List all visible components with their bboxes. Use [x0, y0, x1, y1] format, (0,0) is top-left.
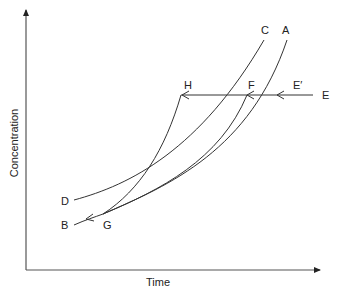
- label-f: F: [248, 79, 255, 91]
- label-a: A: [282, 24, 290, 36]
- curve-d-c: [74, 40, 264, 200]
- label-e-prime: E′: [293, 79, 302, 91]
- label-h: H: [184, 79, 192, 91]
- label-d: D: [61, 195, 69, 207]
- label-b: B: [61, 219, 68, 231]
- curve-g-a: [103, 40, 287, 214]
- diagram-canvas: Concentration Time A C H F E′ E D B G: [0, 0, 339, 293]
- y-axis-label: Concentration: [8, 109, 20, 178]
- label-e: E: [322, 89, 329, 101]
- label-g: G: [103, 219, 112, 231]
- x-axis-label: Time: [146, 276, 170, 288]
- label-c: C: [261, 24, 269, 36]
